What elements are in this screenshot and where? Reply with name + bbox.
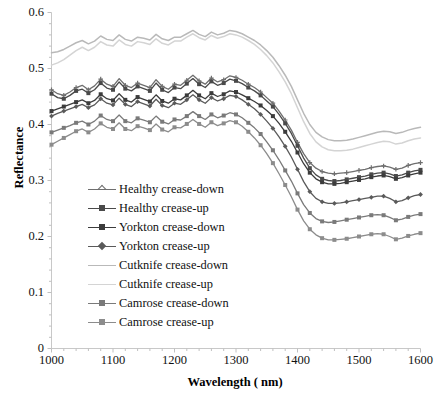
chart-legend: Healthy crease-downHealthy crease-upYork… [88, 180, 229, 332]
data-point-marker [50, 130, 54, 134]
data-point-marker [99, 92, 103, 96]
data-point-marker [345, 218, 349, 222]
data-point-marker [136, 84, 140, 88]
x-tick-label: 1300 [206, 353, 266, 368]
data-point-marker [234, 90, 238, 94]
legend-item[interactable]: Yorkton crease-up [88, 237, 229, 256]
data-point-marker [345, 180, 349, 184]
data-point-marker [271, 105, 275, 109]
data-point-marker [394, 199, 399, 204]
data-point-marker [185, 93, 189, 97]
data-point-marker [74, 100, 78, 104]
data-point-marker [222, 92, 226, 96]
data-point-marker [271, 148, 275, 152]
data-point-marker [123, 87, 127, 91]
data-point-marker [369, 232, 373, 236]
data-point-marker [234, 112, 238, 116]
legend-item[interactable]: Healthy crease-down [88, 180, 229, 199]
data-point-marker [221, 96, 226, 101]
legend-label: Camrose crease-down [119, 297, 229, 310]
data-point-marker [394, 237, 398, 241]
legend-swatch-icon [88, 222, 116, 234]
data-point-marker [406, 195, 411, 200]
data-point-marker [381, 164, 386, 169]
data-point-marker [271, 114, 275, 118]
data-point-marker [394, 167, 399, 172]
data-point-marker [123, 119, 127, 123]
data-point-marker [394, 177, 398, 181]
data-point-marker [148, 120, 152, 124]
data-point-marker [86, 101, 90, 105]
legend-item[interactable]: Cutknife crease-down [88, 256, 229, 275]
data-point-marker [344, 170, 349, 175]
data-point-marker [74, 104, 79, 109]
data-point-marker [259, 143, 263, 147]
data-point-marker [295, 167, 300, 172]
data-point-marker [136, 116, 140, 120]
data-point-marker [50, 143, 54, 147]
data-point-marker [74, 121, 78, 125]
data-point-marker [332, 201, 337, 206]
legend-swatch-icon [88, 260, 116, 272]
data-point-marker [234, 79, 238, 83]
data-point-marker [62, 105, 66, 109]
legend-swatch-icon [88, 203, 116, 215]
data-point-marker [111, 88, 115, 92]
x-tick-label: 1500 [329, 353, 389, 368]
data-point-marker [123, 98, 127, 102]
data-point-marker [246, 96, 250, 100]
data-point-marker [382, 232, 386, 236]
data-point-marker [357, 178, 361, 182]
data-point-marker [283, 183, 287, 187]
data-point-marker [160, 99, 164, 103]
data-point-marker [332, 171, 337, 176]
data-point-marker [173, 97, 177, 101]
data-point-marker [148, 100, 152, 104]
data-point-marker [259, 93, 263, 97]
data-point-marker [406, 215, 410, 219]
data-point-marker [308, 171, 312, 175]
series-line-0 [52, 75, 421, 174]
data-point-marker [369, 165, 374, 170]
data-point-marker [173, 125, 177, 129]
data-point-marker [111, 127, 115, 131]
data-point-marker [283, 121, 287, 125]
data-point-marker [86, 130, 90, 134]
data-point-marker [209, 112, 213, 116]
data-point-marker [419, 212, 423, 216]
data-point-marker [50, 109, 54, 113]
data-point-marker [74, 129, 78, 133]
data-point-marker [369, 175, 373, 179]
data-point-marker [234, 120, 238, 124]
data-point-marker [209, 91, 213, 95]
x-tick-label: 1100 [83, 353, 143, 368]
data-point-marker [320, 219, 324, 223]
legend-swatch-icon [88, 279, 116, 291]
legend-item[interactable]: Camrose crease-up [88, 313, 229, 332]
legend-item[interactable]: Yorkton crease-down [88, 218, 229, 237]
data-point-marker [406, 173, 410, 177]
data-point-marker [418, 160, 423, 165]
legend-item[interactable]: Cutknife crease-up [88, 275, 229, 294]
data-point-marker [136, 95, 140, 99]
data-point-marker [296, 208, 300, 212]
data-point-marker [419, 231, 423, 235]
legend-label: Healthy crease-down [119, 183, 224, 196]
y-tick-label: 0.1 [4, 285, 44, 300]
data-point-marker [406, 234, 410, 238]
data-point-marker [246, 121, 250, 125]
legend-label: Cutknife crease-down [119, 259, 228, 272]
data-point-marker [86, 105, 91, 110]
data-point-marker [320, 236, 324, 240]
data-point-marker [185, 82, 189, 86]
legend-item[interactable]: Healthy crease-up [88, 199, 229, 218]
y-tick-label: 0.3 [4, 173, 44, 188]
data-point-marker [62, 126, 66, 130]
data-point-marker [283, 168, 287, 172]
legend-swatch-icon [88, 241, 116, 253]
data-point-marker [197, 122, 201, 126]
legend-item[interactable]: Camrose crease-down [88, 294, 229, 313]
data-point-marker [296, 144, 300, 148]
y-tick-label: 0.4 [4, 117, 44, 132]
